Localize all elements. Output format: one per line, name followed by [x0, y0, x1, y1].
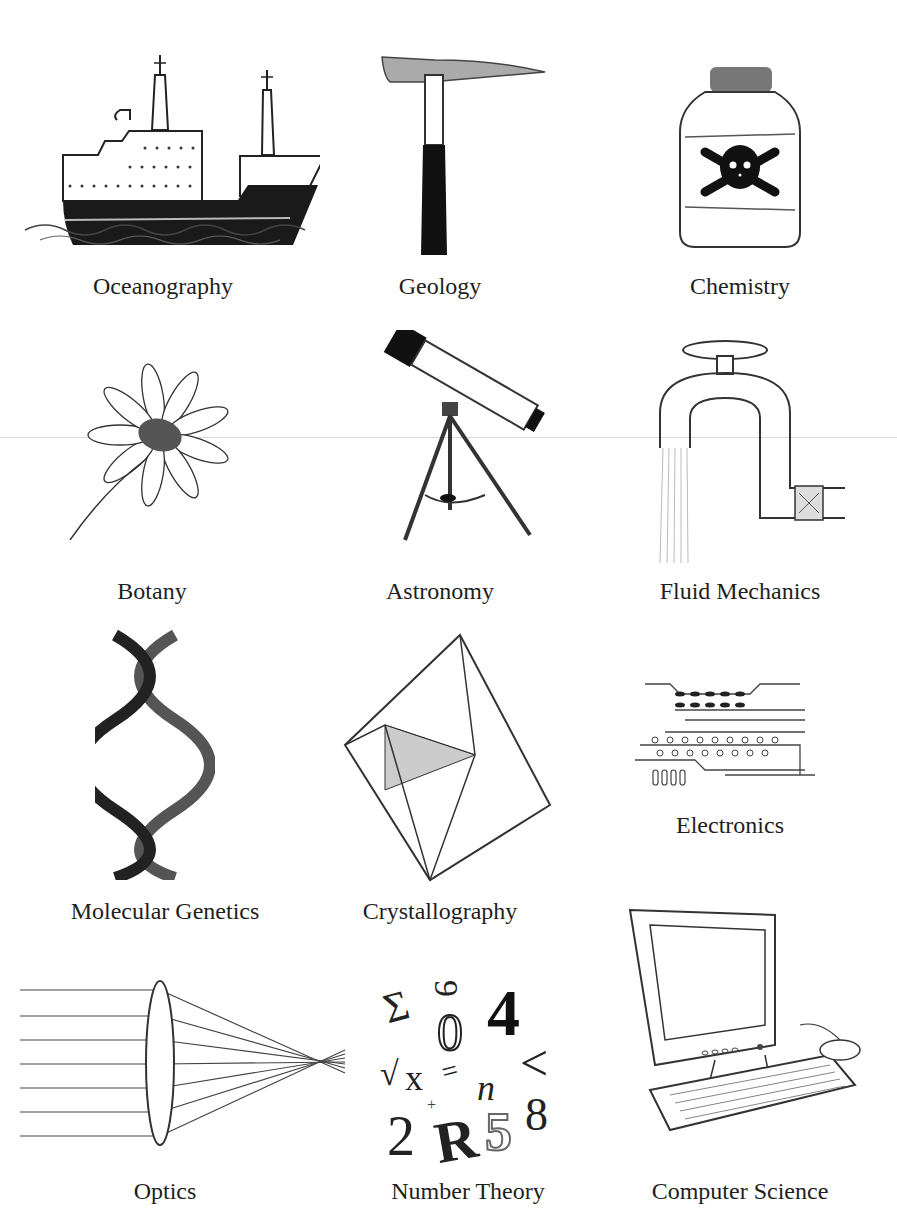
- numbers-symbols-icon: Σ 9 0 4 √ x = n < + 2 R 5 8: [375, 965, 575, 1165]
- item-number-theory: Σ 9 0 4 √ x = n < + 2 R 5 8: [375, 965, 575, 1165]
- telescope-icon: [370, 330, 560, 550]
- rock-hammer-icon: [380, 55, 550, 265]
- water-faucet-icon: [655, 338, 855, 568]
- lens-icon: [20, 978, 350, 1148]
- svg-text:Σ: Σ: [379, 981, 415, 1032]
- svg-text:0: 0: [437, 1004, 463, 1061]
- label-chemistry: Chemistry: [690, 273, 790, 300]
- svg-text:8: 8: [525, 1089, 548, 1140]
- svg-text:5: 5: [485, 1102, 512, 1162]
- label-electronics: Electronics: [676, 812, 784, 839]
- item-chemistry: [675, 62, 825, 252]
- item-oceanography: [20, 55, 320, 255]
- poison-bottle-icon: [675, 62, 825, 252]
- dna-helix-icon: [95, 630, 215, 880]
- label-crystallography: Crystallography: [363, 898, 518, 925]
- label-oceanography: Oceanography: [93, 273, 233, 300]
- svg-text:2: 2: [387, 1105, 415, 1165]
- label-fluid-mechanics: Fluid Mechanics: [660, 578, 821, 605]
- svg-text:x: x: [405, 1058, 423, 1098]
- item-crystallography: [340, 630, 560, 885]
- ship-icon: [20, 55, 320, 255]
- svg-text:√: √: [380, 1055, 399, 1092]
- daisy-flower-icon: [65, 360, 235, 540]
- label-number-theory: Number Theory: [391, 1178, 545, 1205]
- label-molecular-genetics: Molecular Genetics: [71, 898, 260, 925]
- label-geology: Geology: [399, 273, 482, 300]
- svg-text:<: <: [520, 1035, 548, 1091]
- label-computer-science: Computer Science: [652, 1178, 829, 1205]
- label-botany: Botany: [117, 578, 186, 605]
- item-molecular-genetics: [95, 630, 215, 880]
- item-astronomy: [370, 330, 560, 550]
- label-astronomy: Astronomy: [386, 578, 494, 605]
- crystal-icon: [340, 630, 560, 885]
- item-optics: [20, 978, 350, 1148]
- svg-text:4: 4: [487, 976, 520, 1049]
- item-botany: [65, 360, 235, 540]
- computer-icon: [625, 905, 875, 1150]
- item-geology: [380, 55, 550, 265]
- svg-text:R: R: [430, 1104, 484, 1165]
- label-optics: Optics: [134, 1178, 197, 1205]
- svg-text:9: 9: [428, 980, 465, 997]
- item-computer-science: [625, 905, 875, 1150]
- item-fluid-mechanics: [655, 338, 855, 568]
- circuit-board-icon: [635, 680, 815, 790]
- item-electronics: [635, 680, 815, 790]
